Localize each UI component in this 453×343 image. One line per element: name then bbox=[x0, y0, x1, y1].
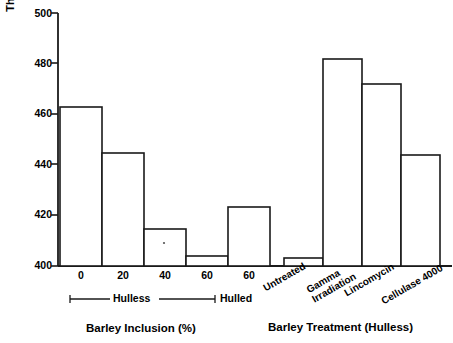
caption-barley-inclusion: Barley Inclusion (%) bbox=[86, 322, 196, 335]
bar-treatment-gamma-irradiation bbox=[323, 59, 362, 266]
x-tick-label-0: 0 bbox=[61, 270, 101, 281]
bar-inclusion-40 bbox=[144, 229, 186, 266]
bar-inclusion-60-hulless bbox=[186, 256, 228, 266]
x-tick-label-60-hulless: 60 bbox=[187, 270, 227, 281]
bar-inclusion-20 bbox=[102, 153, 144, 266]
x-tick-label-20: 20 bbox=[103, 270, 143, 281]
bracket-label-hulled: Hulled bbox=[220, 293, 252, 304]
bar-inclusion-0 bbox=[60, 107, 102, 266]
bar-inclusion-60-hulled bbox=[228, 207, 270, 266]
chart-figure: Three Week Body Wt. (g) 500 480 460 440 … bbox=[0, 0, 453, 343]
x-tick-label-40: 40 bbox=[145, 270, 185, 281]
bar-treatment-lincomycin bbox=[362, 84, 401, 266]
caption-barley-treatment: Barley Treatment (Hulless) bbox=[268, 321, 413, 334]
bar-treatment-cellulase-4000 bbox=[401, 155, 440, 266]
x-tick-label-60-hulled: 60 bbox=[229, 270, 269, 281]
artifact-speck bbox=[163, 242, 165, 244]
bracket-label-hulless: Hulless bbox=[113, 293, 150, 304]
